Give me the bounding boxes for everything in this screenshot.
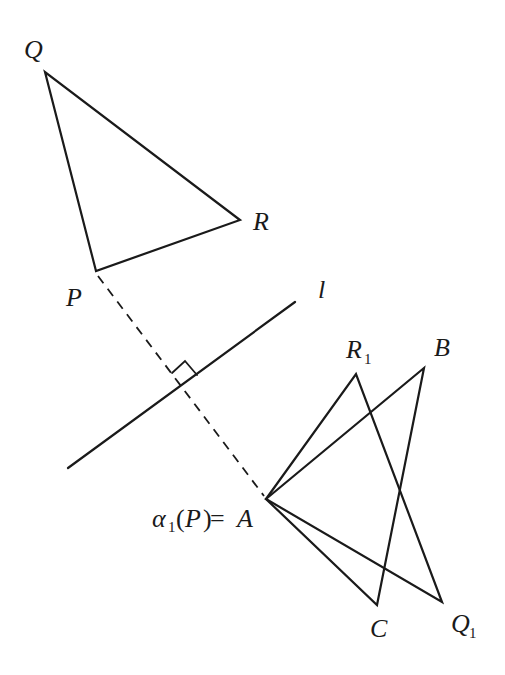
svg-text:α: α	[152, 504, 167, 533]
label-c: C	[370, 614, 388, 643]
label-r1: R 1	[345, 335, 372, 367]
label-q1: Q 1	[451, 609, 477, 641]
label-alpha1-p-equals-a: α 1 ( P ) = A	[152, 504, 253, 535]
label-b: B	[434, 333, 450, 362]
svg-text:1: 1	[168, 519, 176, 535]
svg-text:P: P	[184, 504, 201, 533]
svg-text:1: 1	[364, 351, 372, 367]
triangle-abc	[266, 368, 424, 605]
line-l	[68, 302, 295, 468]
svg-text:1: 1	[469, 625, 477, 641]
label-p: P	[65, 283, 82, 312]
right-angle-marker	[172, 361, 197, 375]
geometry-diagram: Q R P l R 1 B C Q 1 α 1 ( P ) = A	[0, 0, 505, 675]
svg-text:Q: Q	[451, 609, 470, 638]
svg-text:(: (	[176, 504, 185, 533]
triangle-pqr	[45, 72, 240, 271]
svg-text:R: R	[345, 335, 362, 364]
label-l: l	[318, 275, 325, 304]
svg-text:=: =	[210, 504, 225, 533]
label-q: Q	[24, 35, 43, 64]
svg-text:A: A	[235, 504, 253, 533]
label-r: R	[252, 207, 269, 236]
